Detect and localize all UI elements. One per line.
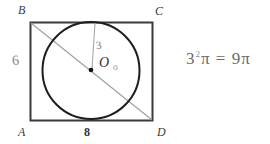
vertex-label-d: D (157, 126, 166, 138)
dimension-label-bottom-side: 8 (84, 126, 90, 138)
dimension-label-radius: 3 (95, 40, 102, 52)
dimension-label-left-side: 6 (11, 54, 19, 69)
handwritten-work: 32π = 9π (186, 50, 251, 67)
figure-canvas: B C A D 6 8 3 O o 32π = 9π (0, 0, 270, 144)
work-base: 3 (186, 49, 196, 68)
work-pi: π (201, 49, 211, 68)
vertex-label-c: C (155, 5, 163, 17)
radius-segment (92, 23, 95, 69)
vertex-label-b: B (18, 4, 25, 16)
work-equals: = (216, 49, 227, 68)
vertex-label-a: A (18, 126, 25, 138)
center-point (89, 68, 94, 73)
work-result: 9π (232, 49, 251, 68)
center-label-o: O (99, 56, 109, 70)
geometry-figure (0, 0, 270, 144)
